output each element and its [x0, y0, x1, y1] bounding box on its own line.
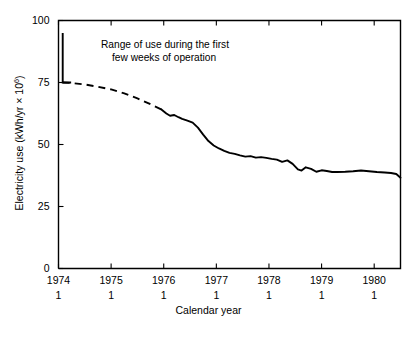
range-of-use-annotation: Range of use during the first few weeks …	[101, 38, 229, 64]
series-electricity-use-dashed	[63, 83, 161, 110]
x-tick-sublabel-1980: 1	[350, 290, 398, 302]
x-tick-label-1978: 1978	[245, 275, 293, 287]
annotation-line-1: Range of use during the first	[101, 38, 229, 51]
annotation-line-2: few weeks of operation	[101, 51, 229, 64]
x-tick-label-1979: 1979	[298, 275, 346, 287]
y-tick-label-100: 100	[0, 15, 50, 27]
y-tick-label-0: 0	[0, 263, 50, 275]
y-axis-title-suffix: )	[13, 75, 25, 79]
x-tick-label-1977: 1977	[192, 275, 240, 287]
range-bar-marker	[63, 33, 71, 83]
x-tick-label-1980: 1980	[350, 275, 398, 287]
y-axis-title-text: Electricity use (kWh/yr × 10	[13, 83, 25, 211]
x-tick-sublabel-1976: 1	[140, 290, 188, 302]
y-axis-title: Electricity use (kWh/yr × 106)	[13, 43, 25, 243]
y-axis-title-exponent: 6	[12, 79, 21, 83]
x-axis-title: Calendar year	[0, 304, 417, 316]
series-electricity-use-solid	[161, 109, 400, 177]
x-tick-sublabel-1979: 1	[298, 290, 346, 302]
x-tick-sublabel-1975: 1	[87, 290, 135, 302]
x-tick-label-1975: 1975	[87, 275, 135, 287]
range-bar-stem	[63, 33, 71, 83]
data-series-group	[63, 83, 401, 178]
x-tick-sublabel-1978: 1	[245, 290, 293, 302]
x-tick-sublabel-1974: 1	[35, 290, 83, 302]
chart-figure: 0255075100 19741197511976119771197811979…	[0, 0, 417, 338]
x-tick-sublabel-1977: 1	[192, 290, 240, 302]
x-tick-label-1974: 1974	[35, 275, 83, 287]
x-tick-label-1976: 1976	[140, 275, 188, 287]
